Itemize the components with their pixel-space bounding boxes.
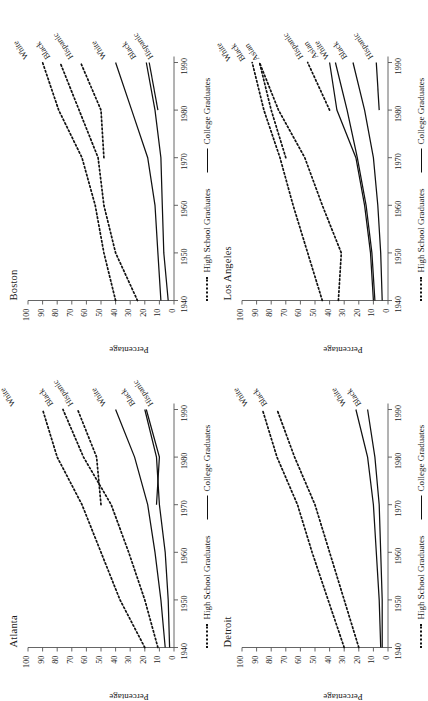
legend-label-college: College Graduates (202, 77, 212, 144)
plot-area-boston: 0102030405060708090100Percentage19401950… (24, 48, 174, 300)
legend-label-high-school: High School Graduates (202, 535, 212, 619)
x-axis-tick-label: 1960 (180, 200, 189, 217)
y-axis-title: Percentage (109, 691, 148, 701)
panel-boston: Boston 0102030405060708090100Percentage1… (0, 0, 214, 346)
legend-entry-college: College Graduates (416, 77, 426, 172)
x-axis-tick-label: 1940 (394, 642, 403, 659)
series-line-high-school-graduates-hispanic (78, 409, 101, 504)
panel-los-angeles: Los Angeles 0102030405060708090100Percen… (214, 0, 428, 346)
series-line-high-school-graduates-black (60, 62, 137, 300)
x-axis-tick-label: 1980 (180, 105, 189, 122)
x-axis-tick-label: 1950 (394, 248, 403, 265)
legend-entry-high-school: High School Graduates (416, 535, 426, 647)
series-line-high-school-graduates-white (262, 409, 344, 647)
dashed-line-icon (206, 276, 208, 300)
x-axis-tick-label: 1980 (180, 452, 189, 469)
legend-entry-high-school: High School Graduates (416, 188, 426, 300)
x-axis-tick-label: 1960 (394, 547, 403, 564)
y-axis-title: Percentage (109, 344, 148, 354)
legend-label-high-school: High School Graduates (416, 535, 426, 619)
x-axis-tick-label: 1990 (180, 404, 189, 421)
y-axis-tick-label: 0 (382, 655, 391, 687)
legend-label-college: College Graduates (202, 424, 212, 491)
y-axis-tick-label: 20 (353, 308, 362, 340)
y-axis-tick-label: 100 (236, 655, 245, 687)
y-axis-tick-label: 100 (22, 655, 31, 687)
y-axis-tick-label: 10 (367, 308, 376, 340)
x-axis-tick-label: 1950 (394, 595, 403, 612)
y-axis-tick-label: 50 (309, 655, 318, 687)
solid-line-icon (421, 148, 422, 172)
x-axis-tick-label: 1940 (180, 295, 189, 312)
legend-entry-college: College Graduates (202, 77, 212, 172)
legend-los-angeles: High School Graduates College Graduates (416, 77, 426, 300)
y-axis-tick-label: 20 (353, 655, 362, 687)
x-axis-tick-label: 1980 (394, 105, 403, 122)
y-axis-tick-label: 80 (51, 308, 60, 340)
y-axis-tick-label: 40 (110, 655, 119, 687)
series-line-high-school-graduates-white (252, 62, 322, 300)
plot-area-detroit: 0102030405060708090100Percentage19401950… (238, 395, 388, 647)
x-axis-tick-label: 1960 (394, 200, 403, 217)
y-axis-tick-label: 90 (251, 655, 260, 687)
x-axis-tick-label: 1940 (394, 295, 403, 312)
series-label-hs-white: White (0, 386, 17, 408)
chart-svg-la (238, 48, 390, 300)
y-axis-tick-label: 60 (80, 655, 89, 687)
x-axis-tick-label: 1960 (180, 547, 189, 564)
series-line-college-graduates-hispanic (376, 62, 379, 110)
x-axis-tick-label: 1990 (394, 57, 403, 74)
y-axis-tick-label: 60 (294, 308, 303, 340)
y-axis-tick-label: 30 (124, 655, 133, 687)
x-axis-tick-label: 1970 (180, 153, 189, 170)
y-axis-tick-label: 70 (66, 308, 75, 340)
y-axis-tick-label: 80 (51, 655, 60, 687)
y-axis-tick-label: 20 (139, 308, 148, 340)
series-line-college-graduates-white (116, 62, 161, 300)
x-axis-tick-label: 1950 (180, 248, 189, 265)
legend-entry-college: College Graduates (202, 424, 212, 519)
y-axis-tick-label: 90 (251, 308, 260, 340)
x-axis-tick-label: 1940 (180, 642, 189, 659)
legend-entry-high-school: High School Graduates (202, 535, 212, 647)
series-line-college-graduates-white (116, 409, 166, 647)
panel-detroit: Detroit 0102030405060708090100Percentage… (214, 347, 428, 693)
series-line-high-school-graduates-black (277, 409, 359, 647)
legend-entry-high-school: High School Graduates (202, 188, 212, 300)
y-axis-tick-label: 50 (309, 308, 318, 340)
y-axis-tick-label: 100 (236, 308, 245, 340)
y-axis-tick-label: 20 (139, 655, 148, 687)
panel-atlanta: Atlanta 0102030405060708090100Percentage… (0, 347, 214, 693)
x-axis-tick-label: 1990 (394, 404, 403, 421)
y-axis-tick-label: 30 (124, 308, 133, 340)
panel-title-detroit: Detroit (222, 616, 233, 647)
y-axis-tick-label: 70 (280, 308, 289, 340)
y-axis-tick-label: 40 (324, 655, 333, 687)
dashed-line-icon (206, 623, 208, 647)
legend-label-college: College Graduates (416, 424, 426, 491)
panel-title-atlanta: Atlanta (8, 615, 19, 647)
y-axis-tick-label: 50 (95, 308, 104, 340)
panel-title-boston: Boston (8, 269, 19, 300)
y-axis-tick-label: 80 (265, 308, 274, 340)
legend-entry-college: College Graduates (416, 424, 426, 519)
y-axis-tick-label: 70 (66, 655, 75, 687)
solid-line-icon (421, 495, 422, 519)
y-axis-title: Percentage (323, 344, 362, 354)
y-axis-tick-label: 30 (338, 308, 347, 340)
series-line-college-graduates-asian (330, 62, 374, 300)
legend-label-college: College Graduates (416, 77, 426, 144)
series-label-hs-white: White (214, 41, 233, 63)
legend-detroit: High School Graduates College Graduates (416, 424, 426, 647)
y-axis-tick-label: 10 (153, 655, 162, 687)
y-axis-tick-label: 0 (168, 655, 177, 687)
y-axis-tick-label: 100 (22, 308, 31, 340)
legend-atlanta: High School Graduates College Graduates (202, 424, 212, 647)
dashed-line-icon (420, 623, 422, 647)
y-axis-title: Percentage (323, 691, 362, 701)
series-line-college-graduates-white (356, 409, 381, 647)
y-axis-tick-label: 60 (294, 655, 303, 687)
